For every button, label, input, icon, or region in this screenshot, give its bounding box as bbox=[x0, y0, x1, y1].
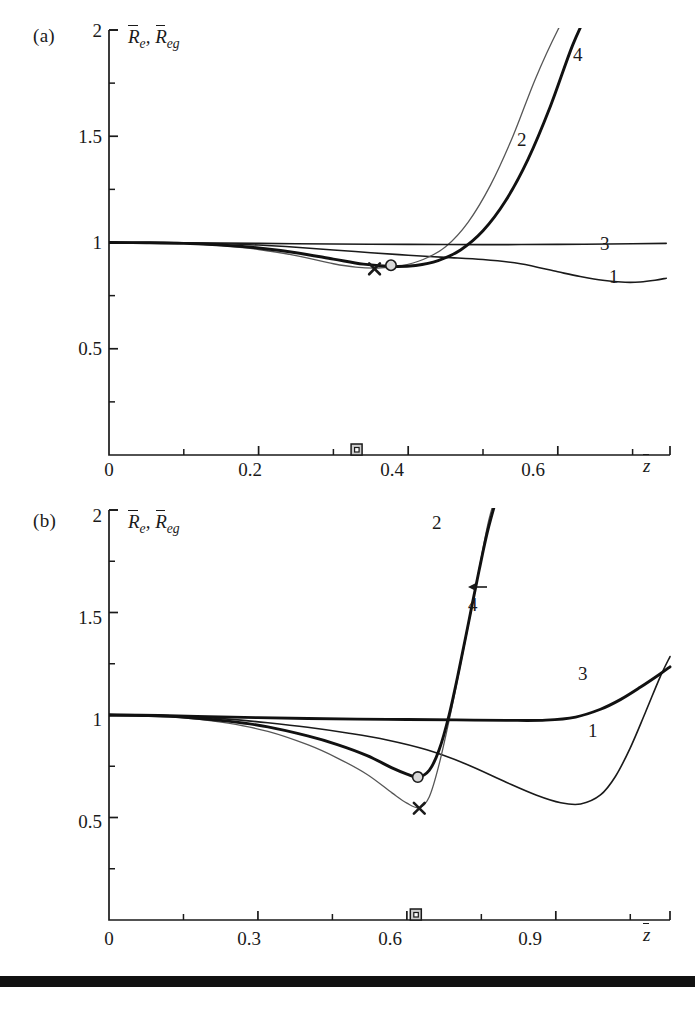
panel-b-xtick-0p9: 0.9 bbox=[503, 928, 557, 950]
panel-b-ytick-1p5: 1.5 bbox=[50, 607, 102, 629]
figure-container: (a) Re, Reg 2 1.5 1 0.5 0 0.2 0.4 0.6 z … bbox=[0, 0, 695, 1009]
panel-a: (a) Re, Reg 2 1.5 1 0.5 0 0.2 0.4 0.6 z … bbox=[0, 0, 695, 490]
panel-a-curve-label-4: 4 bbox=[573, 44, 583, 66]
panel-b-ytick-0p5: 0.5 bbox=[50, 811, 102, 833]
panel-a-xtick-0p6: 0.6 bbox=[506, 459, 560, 481]
panel-b-xtick-0: 0 bbox=[82, 928, 136, 950]
page-bottom-rule bbox=[0, 976, 695, 987]
panel-a-ytick-1p5: 1.5 bbox=[50, 126, 102, 148]
arrow-left-icon bbox=[468, 580, 488, 594]
panel-a-xtick-0p4: 0.4 bbox=[365, 459, 419, 481]
panel-a-xtick-0p2: 0.2 bbox=[223, 459, 277, 481]
panel-a-ytick-0p5: 0.5 bbox=[50, 338, 102, 360]
panel-a-curve-label-1: 1 bbox=[609, 266, 619, 288]
panel-b-ytick-2: 2 bbox=[50, 505, 102, 527]
zbar-symbol: z bbox=[643, 455, 650, 477]
panel-b-curve-label-1: 1 bbox=[588, 720, 598, 742]
panel-a-xtick-0: 0 bbox=[82, 459, 136, 481]
panel-b-xtick-0p6: 0.6 bbox=[363, 928, 417, 950]
panel-a-ytick-2: 2 bbox=[50, 20, 102, 42]
panel-a-plot bbox=[0, 0, 695, 490]
panel-b-curve-label-3: 3 bbox=[578, 663, 588, 685]
zbar-symbol: z bbox=[643, 924, 650, 946]
panel-a-ytick-1: 1 bbox=[50, 232, 102, 254]
panel-a-curve-label-2: 2 bbox=[517, 129, 527, 151]
panel-b: (b) Re, Reg 2 1.5 1 0.5 0 0.3 0.6 0.9 z … bbox=[0, 485, 695, 955]
panel-a-xaxis-title: z bbox=[643, 455, 650, 477]
panel-b-xtick-0p3: 0.3 bbox=[222, 928, 276, 950]
panel-b-xaxis-title: z bbox=[643, 924, 650, 946]
panel-b-curve-label-4: 4 bbox=[468, 580, 488, 616]
panel-b-curve-label-2: 2 bbox=[432, 512, 442, 534]
panel-b-curve-label-4-text: 4 bbox=[468, 594, 478, 615]
panel-a-curve-label-3: 3 bbox=[600, 233, 610, 255]
panel-b-ytick-1: 1 bbox=[50, 709, 102, 731]
